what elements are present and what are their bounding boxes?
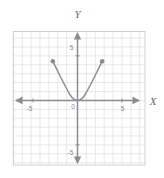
x-axis-label: X bbox=[149, 95, 158, 107]
coordinate-graph-figure: -5 5 5 -5 0 X Y bbox=[0, 0, 164, 178]
x-tick-label-pos5: 5 bbox=[121, 105, 125, 112]
y-axis-label: Y bbox=[74, 8, 82, 20]
y-tick-label-neg5: -5 bbox=[68, 149, 74, 156]
origin-label: 0 bbox=[71, 103, 75, 110]
graph-canvas: -5 5 5 -5 0 X Y bbox=[0, 0, 164, 178]
curve-endpoint-right bbox=[100, 59, 105, 64]
x-tick-label-neg5: -5 bbox=[27, 105, 33, 112]
y-axis bbox=[74, 32, 81, 164]
curve-endpoint-left bbox=[51, 59, 56, 64]
y-tick-label-pos5: 5 bbox=[70, 44, 74, 51]
